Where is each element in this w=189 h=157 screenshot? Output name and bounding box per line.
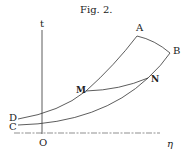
point-label-N: N xyxy=(151,75,159,84)
origin-label: O xyxy=(39,138,47,148)
curve-DMA xyxy=(18,36,137,119)
point-label-A: A xyxy=(136,23,143,33)
point-label-B: B xyxy=(173,46,180,56)
diagram-canvas xyxy=(0,0,189,157)
figure: Fig. 2. t η O A B M N D C xyxy=(0,0,189,157)
point-label-C: C xyxy=(9,122,17,132)
eta-axis-label: η xyxy=(167,139,173,149)
curve-MN xyxy=(86,78,148,91)
point-label-M: M xyxy=(76,86,86,95)
figure-caption: Fig. 2. xyxy=(80,5,112,15)
curve-AB xyxy=(137,36,170,53)
t-axis-label: t xyxy=(40,19,44,29)
